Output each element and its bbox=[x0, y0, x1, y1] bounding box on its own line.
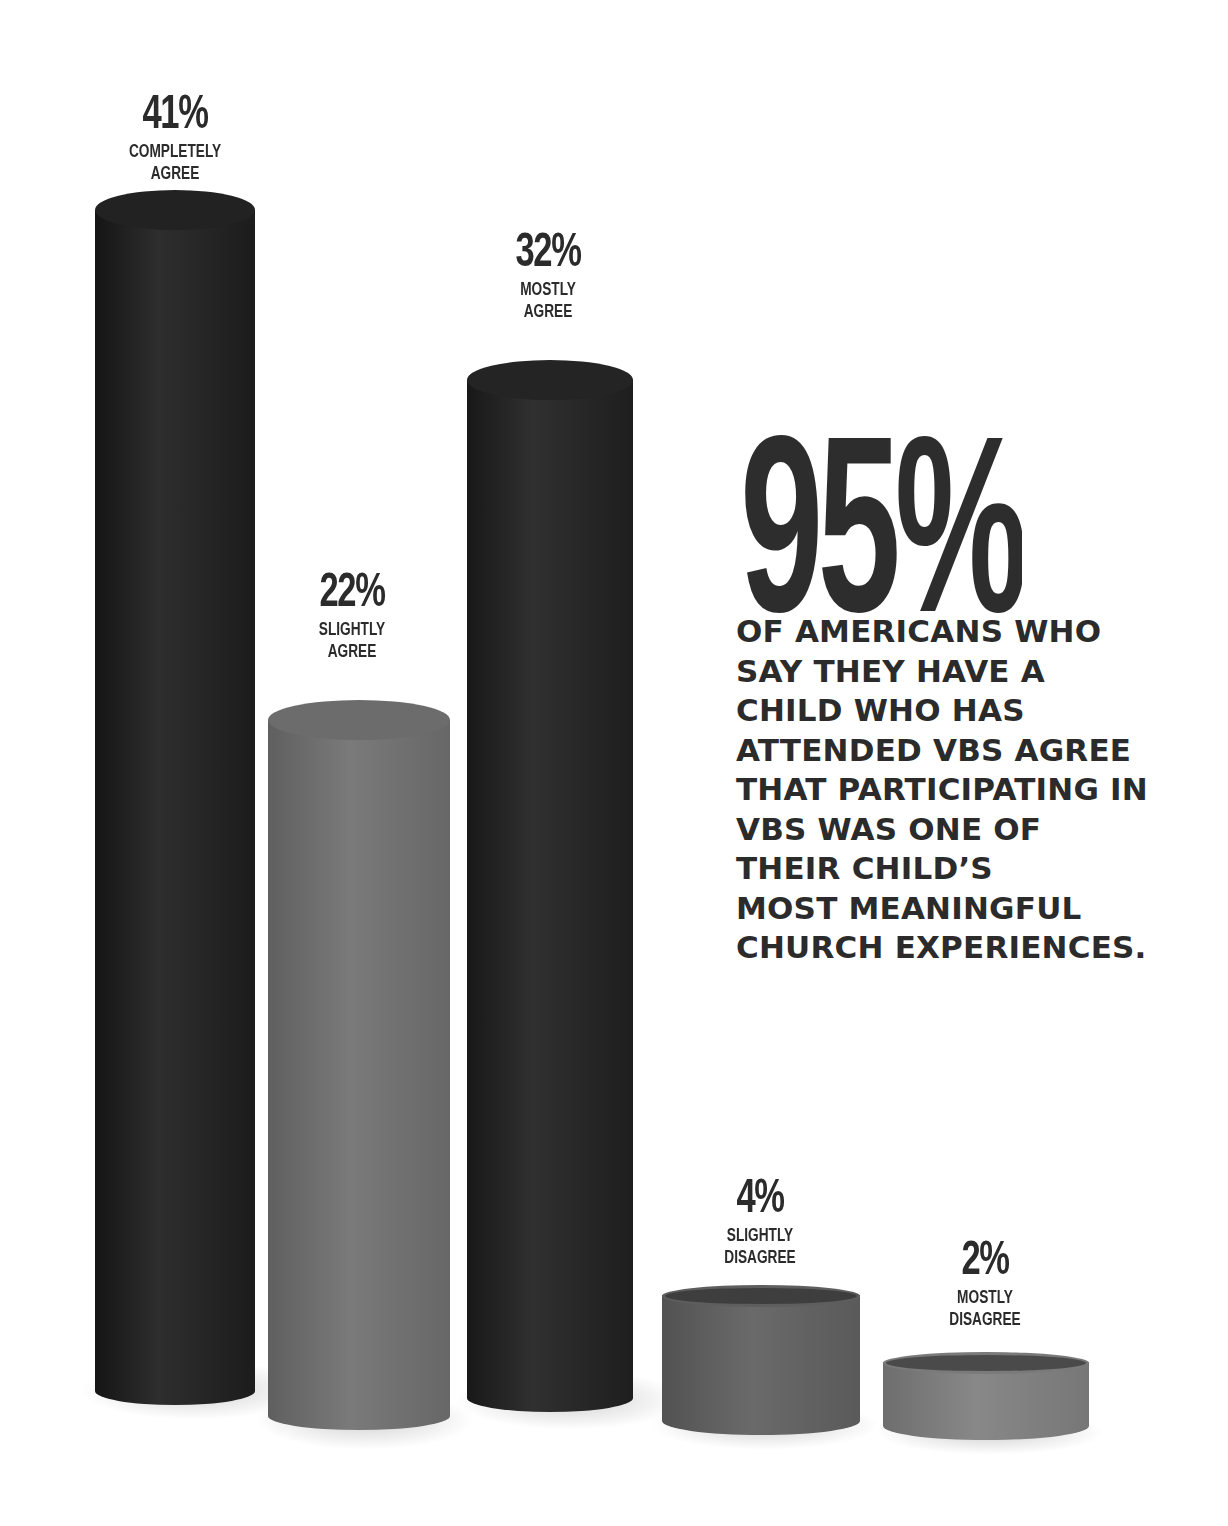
caption-line: MOST MEANINGFUL bbox=[736, 889, 1148, 929]
headline-caption: OF AMERICANS WHO SAY THEY HAVE A CHILD W… bbox=[736, 612, 1148, 968]
caption-line: CHILD WHO HAS bbox=[736, 691, 1148, 731]
caption-line: THEIR CHILD’S bbox=[736, 849, 1148, 889]
bar-slightly-agree bbox=[268, 700, 450, 1430]
bar-category: COMPLETELYAGREE bbox=[129, 140, 221, 184]
bar-category: MOSTLYDISAGREE bbox=[949, 1286, 1020, 1330]
bar-label-slightly-agree: 22% SLIGHTLYAGREE bbox=[306, 566, 398, 662]
bar-value: 32% bbox=[516, 226, 581, 274]
bar-category: SLIGHTLYDISAGREE bbox=[724, 1224, 795, 1268]
caption-line: CHURCH EXPERIENCES. bbox=[736, 928, 1148, 968]
bar-category: SLIGHTLYAGREE bbox=[319, 618, 385, 662]
bar-slightly-disagree bbox=[662, 1285, 860, 1435]
bar-completely-agree bbox=[95, 190, 255, 1405]
caption-line: VBS WAS ONE OF bbox=[736, 810, 1148, 850]
bar-category: MOSTLYAGREE bbox=[516, 278, 581, 322]
caption-line: ATTENDED VBS AGREE bbox=[736, 731, 1148, 771]
caption-line: THAT PARTICIPATING IN bbox=[736, 770, 1148, 810]
bar-mostly-disagree bbox=[883, 1352, 1089, 1440]
bar-value: 2% bbox=[949, 1234, 1020, 1282]
bar-label-mostly-agree: 32% MOSTLYAGREE bbox=[503, 226, 593, 322]
caption-line: SAY THEY HAVE A bbox=[736, 652, 1148, 692]
caption-line: OF AMERICANS WHO bbox=[736, 612, 1148, 652]
bar-value: 4% bbox=[724, 1172, 795, 1220]
bar-value: 41% bbox=[129, 88, 221, 136]
bar-label-mostly-disagree: 2% MOSTLYDISAGREE bbox=[935, 1234, 1034, 1330]
bar-label-slightly-disagree: 4% SLIGHTLYDISAGREE bbox=[710, 1172, 809, 1268]
bar-label-completely-agree: 41% COMPLETELYAGREE bbox=[111, 88, 239, 184]
bar-value: 22% bbox=[319, 566, 385, 614]
bar-mostly-agree bbox=[467, 360, 633, 1412]
